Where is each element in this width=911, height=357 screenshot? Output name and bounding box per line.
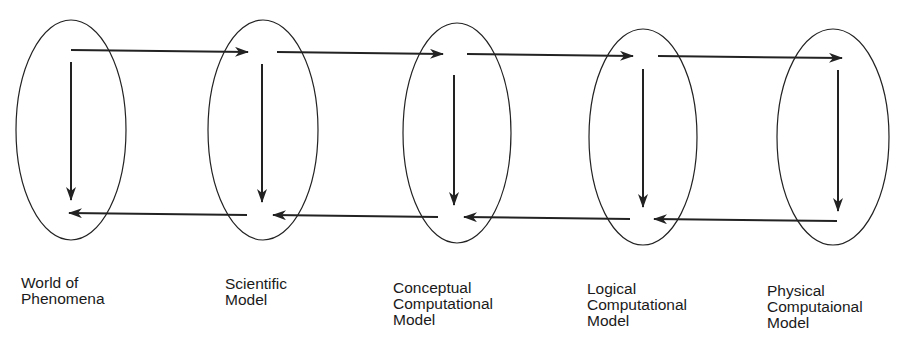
label-line: Model xyxy=(767,315,863,331)
arrow-world-to-scientific-forward xyxy=(71,50,248,52)
label-physical-computational-model: Physical Computaional Model xyxy=(767,283,863,331)
arrow-logical-to-physical-forward xyxy=(658,56,842,58)
label-line: Phenomena xyxy=(21,291,105,307)
ellipse-physical xyxy=(777,29,889,245)
label-line: Conceptual xyxy=(393,280,493,296)
arrow-scientific-to-conceptual-forward xyxy=(277,52,443,54)
label-logical-computational-model: Logical Computational Model xyxy=(587,281,687,329)
ellipse-conceptual xyxy=(403,23,511,243)
label-line: Scientific xyxy=(225,276,287,292)
label-line: Model xyxy=(393,312,493,328)
label-line: Physical xyxy=(767,283,863,299)
label-line: Model xyxy=(225,292,287,308)
edge-arrows xyxy=(69,50,842,221)
label-line: Computational xyxy=(393,296,493,312)
label-world-of-phenomena: World of Phenomena xyxy=(21,275,105,307)
arrow-physical-to-logical-backward xyxy=(654,219,837,221)
label-line: World of xyxy=(21,275,105,291)
label-line: Model xyxy=(587,313,687,329)
label-line: Computational xyxy=(587,297,687,313)
arrow-scientific-to-world-backward xyxy=(69,213,247,215)
label-line: Computaional xyxy=(767,299,863,315)
node-ellipses xyxy=(16,20,889,245)
arrow-logical-to-conceptual-backward xyxy=(464,217,630,219)
label-conceptual-computational-model: Conceptual Computational Model xyxy=(393,280,493,328)
label-scientific-model: Scientific Model xyxy=(225,276,287,308)
arrow-conceptual-to-scientific-backward xyxy=(273,215,438,217)
label-line: Logical xyxy=(587,281,687,297)
